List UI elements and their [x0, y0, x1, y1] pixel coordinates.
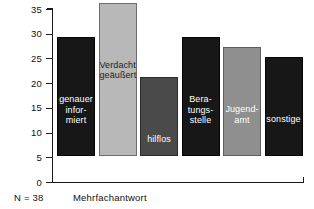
y-axis-tick-35: [46, 9, 52, 10]
y-axis-tick-5: [46, 157, 52, 158]
y-axis-tick-label: 10: [31, 128, 42, 137]
y-axis-tick-label: 35: [31, 5, 42, 14]
bar-category-label: sonstige: [266, 114, 302, 125]
y-axis-tick-label: 25: [31, 54, 42, 63]
bar-category-label: Verdacht geäußert: [100, 60, 136, 81]
y-axis-tick-label: 20: [31, 79, 42, 88]
bar-category-label: Bera- tungs- stelle: [183, 94, 219, 126]
bar-1: genauer infor- miert: [57, 37, 95, 156]
sample-size-note: N = 38: [14, 192, 43, 203]
bar-6: sonstige: [265, 57, 303, 156]
y-axis-tick-0: [46, 182, 52, 183]
multiple-answers-note: Mehrfachantwort: [73, 192, 147, 203]
y-axis-tick-10: [46, 133, 52, 134]
y-axis-tick-label: 15: [31, 103, 42, 112]
bar-4: Bera- tungs- stelle: [182, 37, 220, 156]
y-axis-tick-25: [46, 58, 52, 59]
bar-3: hilflos: [140, 77, 178, 156]
bar-2: Verdacht geäußert: [99, 3, 137, 156]
y-axis-tick-label: 0: [37, 178, 42, 187]
y-axis-tick-30: [46, 34, 52, 35]
y-axis-tick-label: 5: [37, 153, 42, 162]
y-axis-tick-label: 30: [31, 29, 42, 38]
bar-series: genauer infor- miertVerdacht geäußerthil…: [53, 0, 304, 183]
y-axis-tick-20: [46, 83, 52, 84]
bar-5: Jugend- amt: [223, 47, 261, 156]
bar-category-label: hilflos: [141, 134, 177, 145]
bar-chart: 35302520151050 genauer infor- miertVerda…: [0, 0, 314, 209]
y-axis-tick-15: [46, 108, 52, 109]
bar-category-label: Jugend- amt: [224, 104, 260, 125]
bar-category-label: genauer infor- miert: [58, 94, 94, 126]
